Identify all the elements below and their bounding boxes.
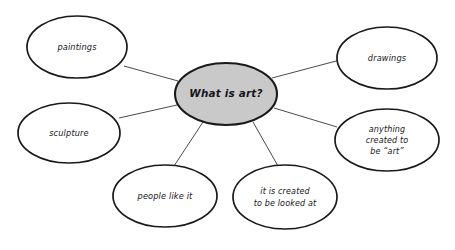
node-label-anything-created-to-be-art: anythingcreated tobe “art” <box>366 125 409 156</box>
node-sculpture[interactable]: sculpture <box>18 103 120 163</box>
node-label-sculpture: sculpture <box>49 128 89 138</box>
node-label-paintings: paintings <box>56 42 97 52</box>
edge-central-sculpture <box>119 105 177 118</box>
edge-central-people-like-it <box>174 122 203 166</box>
node-label-people-like-it: people like it <box>137 191 194 201</box>
edge-central-drawings <box>272 60 340 78</box>
node-anything-created-to-be-art[interactable]: anythingcreated tobe “art” <box>335 109 439 171</box>
mindmap-canvas: paintings drawings sculpture anythingcre… <box>0 0 455 250</box>
mindmap-svg: paintings drawings sculpture anythingcre… <box>0 0 455 250</box>
node-drawings[interactable]: drawings <box>337 27 437 89</box>
node-label-central: What is art? <box>189 87 262 99</box>
node-paintings[interactable]: paintings <box>27 16 127 78</box>
edge-central-paintings <box>124 66 178 81</box>
node-label-drawings: drawings <box>368 53 407 63</box>
node-ellipse-it-is-created-to-be-looked-at[interactable] <box>233 165 337 229</box>
edge-central-it-is-created-to-be-looked-at <box>253 122 278 166</box>
node-it-is-created-to-be-looked-at[interactable]: it is createdto be looked at <box>233 165 337 229</box>
node-central[interactable]: What is art? <box>175 63 277 125</box>
node-people-like-it[interactable]: people like it <box>113 165 217 227</box>
edge-central-anything-created-to-be-art <box>274 108 337 127</box>
